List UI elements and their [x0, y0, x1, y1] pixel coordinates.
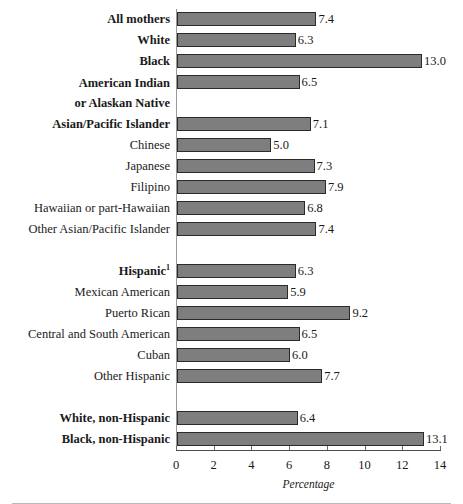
bar-row: Central and South American6.5 — [0, 324, 463, 345]
bar-label: Hispanic1 — [0, 261, 176, 282]
bar-value-label: 7.7 — [322, 366, 340, 387]
x-axis-tick-label: 10 — [350, 458, 380, 472]
row-spacer — [0, 240, 463, 261]
bar-label: Black — [0, 51, 176, 72]
bar-label: White — [0, 30, 176, 51]
x-axis-tick — [289, 446, 290, 450]
bar-value-label: 5.0 — [271, 135, 289, 156]
bar-value-label: 6.5 — [300, 324, 318, 345]
x-axis-tick — [365, 446, 366, 450]
bar-label: Other Asian/Pacific Islander — [0, 219, 176, 240]
bar — [177, 33, 296, 47]
bar-row: All mothers7.4 — [0, 9, 463, 30]
bar-rows: All mothers7.4White6.3Black13.0American … — [0, 9, 463, 450]
bar — [177, 117, 311, 131]
bar-value-label: 6.8 — [305, 198, 323, 219]
x-axis-tick-label: 8 — [312, 458, 342, 472]
bar-value-label: 7.4 — [316, 219, 334, 240]
bar-value-label: 6.3 — [296, 261, 314, 282]
x-axis-tick-label: 2 — [199, 458, 229, 472]
x-axis-tick — [327, 446, 328, 450]
bar-label: Cuban — [0, 345, 176, 366]
bar — [177, 264, 296, 278]
bar — [177, 54, 422, 68]
bar-label: Puerto Rican — [0, 303, 176, 324]
x-axis-tick-label: 4 — [236, 458, 266, 472]
bar — [177, 306, 350, 320]
bar-row: Filipino7.9 — [0, 177, 463, 198]
bar-value-label: 13.0 — [422, 51, 446, 72]
bar — [177, 159, 315, 173]
bar — [177, 12, 316, 26]
bar-row: Asian/Pacific Islander7.1 — [0, 114, 463, 135]
bar-value-label: 7.3 — [315, 156, 333, 177]
row-spacer — [0, 387, 463, 408]
bar — [177, 369, 322, 383]
x-axis-tick — [214, 446, 215, 450]
x-axis-tick-label: 6 — [274, 458, 304, 472]
bar-label: Other Hispanic — [0, 366, 176, 387]
bar — [177, 348, 290, 362]
bar-row: Black13.0 — [0, 51, 463, 72]
bar — [177, 201, 305, 215]
bar-row: American Indianor Alaskan Native6.5 — [0, 72, 463, 114]
bar-row: White6.3 — [0, 30, 463, 51]
bar — [177, 327, 300, 341]
bar-row: Other Hispanic7.7 — [0, 366, 463, 387]
bar-row: Chinese5.0 — [0, 135, 463, 156]
bar — [177, 180, 326, 194]
bar — [177, 432, 424, 446]
bar-row: Japanese7.3 — [0, 156, 463, 177]
footnote-superscript: 1 — [166, 263, 170, 272]
bar-row: White, non-Hispanic6.4 — [0, 408, 463, 429]
bar — [177, 285, 288, 299]
bar — [177, 138, 271, 152]
bar-label: Asian/Pacific Islander — [0, 114, 176, 135]
bar — [177, 222, 316, 236]
bar-value-label: 13.1 — [424, 429, 448, 450]
bar-row: Mexican American5.9 — [0, 282, 463, 303]
bar-row: Hispanic16.3 — [0, 261, 463, 282]
x-axis-tick — [176, 446, 177, 450]
bar-value-label: 7.9 — [326, 177, 344, 198]
bar-label: Central and South American — [0, 324, 176, 345]
x-axis-tick-label: 0 — [161, 458, 191, 472]
bar-value-label: 6.5 — [300, 72, 318, 93]
bar-row: Puerto Rican9.2 — [0, 303, 463, 324]
bar-value-label: 6.0 — [290, 345, 308, 366]
bar-row: Other Asian/Pacific Islander7.4 — [0, 219, 463, 240]
bar — [177, 75, 300, 89]
bar-row: Black, non-Hispanic13.1 — [0, 429, 463, 450]
bar-value-label: 6.4 — [298, 408, 316, 429]
bar-label: All mothers — [0, 9, 176, 30]
bar-label: Hawaiian or part-Hawaiian — [0, 198, 176, 219]
x-axis-line — [176, 450, 441, 451]
bar-value-label: 6.3 — [296, 30, 314, 51]
bar-label: Filipino — [0, 177, 176, 198]
bar-label: Mexican American — [0, 282, 176, 303]
bar-value-label: 5.9 — [288, 282, 306, 303]
bar-label: Japanese — [0, 156, 176, 177]
bar-value-label: 9.2 — [350, 303, 368, 324]
bar-label: American Indianor Alaskan Native — [0, 72, 176, 114]
x-axis-label: Percentage — [176, 478, 441, 490]
x-axis-tick — [402, 446, 403, 450]
x-axis-tick — [440, 446, 441, 450]
bar-label: Black, non-Hispanic — [0, 429, 176, 450]
bar-value-label: 7.1 — [311, 114, 329, 135]
bar-row: Cuban6.0 — [0, 345, 463, 366]
x-axis-tick — [251, 446, 252, 450]
x-axis-tick-label: 12 — [387, 458, 417, 472]
bar — [177, 411, 298, 425]
bar-row: Hawaiian or part-Hawaiian6.8 — [0, 198, 463, 219]
x-axis-tick-label: 14 — [425, 458, 455, 472]
bar-value-label: 7.4 — [316, 9, 334, 30]
bar-label: Chinese — [0, 135, 176, 156]
bar-label: White, non-Hispanic — [0, 408, 176, 429]
